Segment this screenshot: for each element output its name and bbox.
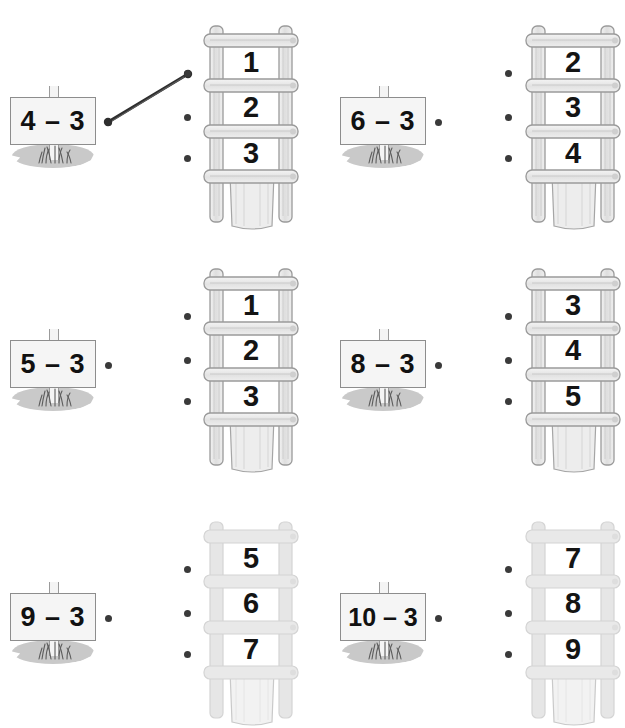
ladder-number-2-2[interactable]: 3 [545,93,601,122]
sign-dot-6[interactable] [435,615,442,622]
ladder-number-6-1[interactable]: 7 [545,544,601,573]
grass-icon [362,385,408,407]
sign-label-6: 10 – 3 [348,605,418,630]
sign-group-2: 6 – 3 [340,76,450,186]
ladder-number-5-2[interactable]: 6 [223,589,279,618]
sign-group-6: 10 – 3 [340,572,450,682]
sign-board-1[interactable]: 4 – 3 [10,97,96,145]
ladder-number-3-2[interactable]: 2 [223,336,279,365]
ladder-number-2-3[interactable]: 4 [545,139,601,168]
grass-icon [32,142,78,164]
ladder-dot-6-2[interactable] [505,610,512,617]
ladder-number-4-3[interactable]: 5 [545,382,601,411]
ladder-dot-1-3[interactable] [184,155,191,162]
ladder-dot-5-3[interactable] [184,651,191,658]
sign-dot-4[interactable] [435,362,442,369]
sign-label-4: 8 – 3 [350,351,415,378]
ladder-dot-2-3[interactable] [505,155,512,162]
ladder-number-5-3[interactable]: 7 [223,635,279,664]
grass-icon [362,638,408,660]
ladder-1: 1 2 3 [196,22,306,232]
sign-group-5: 9 – 3 [10,572,120,682]
ladder-dot-3-2[interactable] [184,357,191,364]
ladder-number-4-2[interactable]: 4 [545,336,601,365]
sign-board-3[interactable]: 5 – 3 [10,340,96,388]
ladder-number-1-2[interactable]: 2 [223,93,279,122]
ladder-dot-2-1[interactable] [505,70,512,77]
ladder-number-6-2[interactable]: 8 [545,589,601,618]
sign-group-3: 5 – 3 [10,319,120,429]
sign-label-1: 4 – 3 [20,108,85,135]
sign-board-2[interactable]: 6 – 3 [340,97,426,145]
ladder-dot-5-2[interactable] [184,610,191,617]
ladder-dot-6-3[interactable] [505,651,512,658]
ladder-6: 7 8 9 [518,518,625,728]
ladder-number-1-1[interactable]: 1 [223,48,279,77]
ladder-dot-1-2[interactable] [184,114,191,121]
ladder-number-3-1[interactable]: 1 [223,291,279,320]
ladder-2: 2 3 4 [518,22,625,232]
sign-label-3: 5 – 3 [20,351,85,378]
ladder-number-6-3[interactable]: 9 [545,635,601,664]
ladder-dot-5-1[interactable] [184,566,191,573]
ladder-3: 1 2 3 [196,265,306,475]
ladder-dot-4-2[interactable] [505,357,512,364]
sign-board-6[interactable]: 10 – 3 [340,593,426,641]
sign-label-2: 6 – 3 [350,108,415,135]
ladder-dot-6-1[interactable] [505,566,512,573]
ladder-number-4-1[interactable]: 3 [545,291,601,320]
sign-dot-5[interactable] [105,615,112,622]
sign-dot-3[interactable] [105,362,112,369]
sign-dot-2[interactable] [435,119,442,126]
sign-board-4[interactable]: 8 – 3 [340,340,426,388]
sign-group-1: 4 – 3 [10,76,120,186]
ladder-5: 5 6 7 [196,518,306,728]
grass-icon [32,638,78,660]
ladder-number-3-3[interactable]: 3 [223,382,279,411]
ladder-dot-2-2[interactable] [505,114,512,121]
ladder-dot-4-3[interactable] [505,398,512,405]
grass-icon [32,385,78,407]
sign-group-4: 8 – 3 [340,319,450,429]
ladder-dot-3-3[interactable] [184,398,191,405]
ladder-number-1-3[interactable]: 3 [223,139,279,168]
sign-board-5[interactable]: 9 – 3 [10,593,96,641]
sign-label-5: 9 – 3 [20,604,85,631]
ladder-dot-4-1[interactable] [505,313,512,320]
sign-dot-1[interactable] [105,119,112,126]
ladder-number-5-1[interactable]: 5 [223,544,279,573]
grass-icon [362,142,408,164]
ladder-number-2-1[interactable]: 2 [545,48,601,77]
ladder-dot-3-1[interactable] [184,313,191,320]
ladder-4: 3 4 5 [518,265,625,475]
ladder-dot-1-1[interactable] [184,70,191,77]
